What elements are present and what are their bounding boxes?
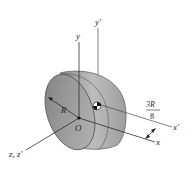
label-r: R xyxy=(60,105,67,115)
label-y: y xyxy=(75,31,80,41)
hemisphere-diagram: y y′ R O 3R 8 x′ x z, z′ xyxy=(0,0,196,174)
origin-point xyxy=(77,116,80,119)
label-x: x xyxy=(155,137,160,147)
label-x-prime: x′ xyxy=(172,122,180,132)
label-offset-numerator: 3R xyxy=(145,100,155,109)
label-o: O xyxy=(75,123,82,133)
label-z: z, z′ xyxy=(8,149,24,159)
label-y-prime: y′ xyxy=(94,17,102,27)
label-offset-denominator: 8 xyxy=(150,112,154,121)
centroid-icon xyxy=(93,102,101,110)
